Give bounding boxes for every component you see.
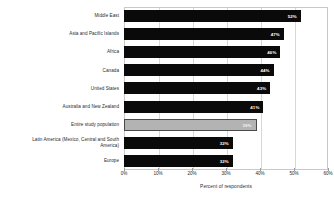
bar-row[interactable]: Entire study population39% — [0, 116, 334, 134]
bar-row[interactable]: Asia and Pacific Islands47% — [0, 25, 334, 43]
bar-value-label: 39% — [243, 122, 252, 127]
bar-row[interactable]: Canada44% — [0, 61, 334, 79]
category-label: Entire study population — [0, 122, 119, 128]
category-label: Asia and Pacific Islands — [0, 31, 119, 37]
bar-value-label: 41% — [250, 104, 259, 109]
bar[interactable]: 44% — [124, 64, 274, 76]
bar[interactable]: 39% — [124, 119, 257, 131]
bar[interactable]: 46% — [124, 46, 280, 58]
bar-value-label: 46% — [267, 50, 276, 55]
x-tick-label: 30% — [213, 171, 239, 177]
bar[interactable]: 32% — [124, 137, 233, 149]
category-label: Europe — [0, 158, 119, 164]
x-tick-mark — [260, 168, 261, 171]
x-tick-mark — [124, 168, 125, 171]
bar-row[interactable]: United States43% — [0, 79, 334, 97]
bar-value-label: 52% — [288, 14, 297, 19]
category-label: Middle East — [0, 13, 119, 19]
bar-value-label: 32% — [220, 158, 229, 163]
x-tick-mark — [192, 168, 193, 171]
bar-row[interactable]: Africa46% — [0, 43, 334, 61]
x-tick-mark — [328, 168, 329, 171]
x-tick-mark — [226, 168, 227, 171]
x-tick-label: 50% — [281, 171, 307, 177]
category-label: United States — [0, 86, 119, 92]
x-tick-mark — [294, 168, 295, 171]
x-tick-mark — [158, 168, 159, 171]
category-label: Africa — [0, 49, 119, 55]
x-tick-label: 20% — [179, 171, 205, 177]
x-tick-label: 0% — [111, 171, 137, 177]
bar-row[interactable]: Europe32% — [0, 152, 334, 170]
bar-rows: Middle East52%Asia and Pacific Islands47… — [0, 7, 334, 170]
x-axis-ticks: 0%10%20%30%40%50%60% — [0, 171, 334, 181]
bar-row[interactable]: Middle East52% — [0, 7, 334, 25]
bar-chart: Middle East52%Asia and Pacific Islands47… — [0, 0, 334, 203]
category-label: Canada — [0, 68, 119, 74]
bar[interactable]: 32% — [124, 155, 233, 167]
x-tick-label: 60% — [315, 171, 334, 177]
bar[interactable]: 43% — [124, 82, 270, 94]
bar-value-label: 43% — [257, 86, 266, 91]
bar-value-label: 47% — [271, 32, 280, 37]
x-tick-label: 10% — [145, 171, 171, 177]
bar[interactable]: 47% — [124, 28, 284, 40]
bar-row[interactable]: Australia and New Zealand41% — [0, 98, 334, 116]
bar[interactable]: 41% — [124, 101, 263, 113]
bar[interactable]: 52% — [124, 10, 301, 22]
bar-row[interactable]: Latin America (Mexico, Central and South… — [0, 134, 334, 152]
x-axis-title: Percent of respondents — [124, 184, 328, 190]
category-label: Australia and New Zealand — [0, 104, 119, 110]
category-label: Latin America (Mexico, Central and South… — [0, 137, 119, 148]
bar-value-label: 44% — [261, 68, 270, 73]
x-tick-label: 40% — [247, 171, 273, 177]
bar-value-label: 32% — [220, 140, 229, 145]
